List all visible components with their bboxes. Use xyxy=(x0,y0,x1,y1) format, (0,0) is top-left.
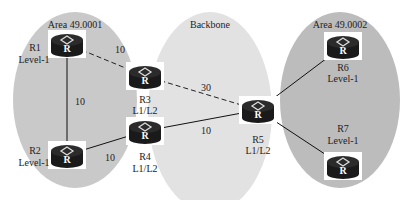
link-cost-r4-r5: 10 xyxy=(198,125,214,136)
router-level-r5: L1/L2 xyxy=(238,145,278,156)
router-name-r5: R5 xyxy=(243,134,273,145)
link-cost-r1-r3: 10 xyxy=(112,44,128,55)
router-level-r4: L1/L2 xyxy=(125,163,165,174)
router-level-r7: Level-1 xyxy=(323,135,363,146)
link-cost-r3-r5: 30 xyxy=(198,82,214,93)
area-label-49-0001: Area 49.0001 xyxy=(40,19,110,30)
router-icon-r6 xyxy=(324,32,362,60)
router-icon-r5 xyxy=(239,96,277,124)
router-name-r3: R3 xyxy=(130,94,160,105)
router-icon-r7 xyxy=(324,152,362,180)
area-label-49-0002: Area 49.0002 xyxy=(305,19,375,30)
link-cost-r2-r4: 10 xyxy=(102,152,118,163)
router-icon-r3 xyxy=(126,62,164,90)
router-level-r2: Level-1 xyxy=(14,157,54,168)
link-cost-r1-r2: 10 xyxy=(72,96,88,107)
router-level-r3: L1/L2 xyxy=(125,105,165,116)
router-name-r4: R4 xyxy=(130,151,160,162)
isis-topology-diagram: R xyxy=(0,0,410,200)
router-name-r7: R7 xyxy=(328,123,358,134)
router-icon-r4 xyxy=(126,117,164,145)
router-name-r1: R1 xyxy=(20,42,50,53)
router-name-r2: R2 xyxy=(20,145,50,156)
router-name-r6: R6 xyxy=(328,62,358,73)
router-level-r1: Level-1 xyxy=(14,54,54,65)
area-label-backbone: Backbone xyxy=(175,19,245,30)
router-level-r6: Level-1 xyxy=(323,73,363,84)
